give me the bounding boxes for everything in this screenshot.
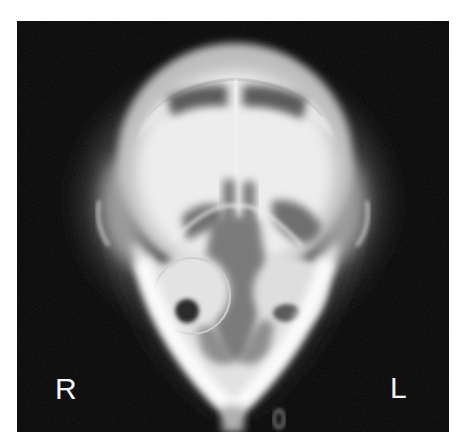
left-side-marker: L	[390, 373, 407, 403]
skull-radiograph	[17, 21, 449, 432]
xray-image: R L	[17, 21, 449, 432]
right-side-marker: R	[55, 374, 77, 404]
